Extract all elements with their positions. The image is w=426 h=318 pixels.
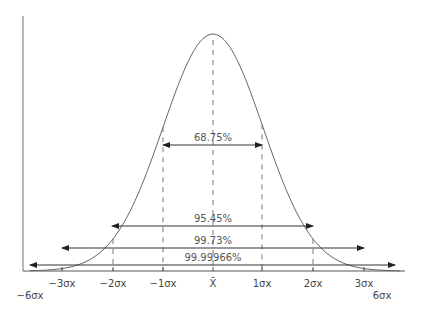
- tick-label: 3σx: [355, 278, 374, 289]
- outer-label-left: −6σx: [17, 290, 44, 301]
- band-label: 99.73%: [194, 235, 232, 246]
- tick-label: −1σx: [150, 278, 177, 289]
- outer-label-right: 6σx: [373, 290, 392, 301]
- tick-label: −3σx: [49, 278, 76, 289]
- band-label: 95.45%: [194, 213, 232, 224]
- tick-label: 1σx: [253, 278, 272, 289]
- tick-label: X̄: [210, 277, 217, 289]
- tick-label: 2σx: [304, 278, 323, 289]
- tick-label: −2σx: [100, 278, 127, 289]
- x-axis-ticks: [62, 267, 364, 271]
- diagram-canvas: 68.75%95.45%99.73%99.99966% −3σx−2σx−1σx…: [0, 0, 426, 318]
- band-label: 99.99966%: [184, 252, 241, 263]
- x-axis-tick-labels: −3σx−2σx−1σxX̄1σx2σx3σx: [49, 277, 374, 289]
- normal-distribution-diagram: 68.75%95.45%99.73%99.99966% −3σx−2σx−1σx…: [0, 0, 426, 318]
- band-label: 68.75%: [194, 132, 232, 143]
